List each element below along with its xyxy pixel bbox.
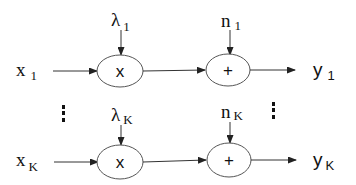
ellipsis-right [272, 102, 275, 119]
row-1: x1 λ1 x n1 + y1 [16, 9, 335, 87]
gain-label-1: λ1 [111, 9, 130, 34]
noise-label-1: n1 [221, 10, 241, 33]
multiplier-symbol-k: x [116, 153, 125, 172]
adder-node-1: + [206, 54, 250, 86]
multiplier-symbol-1: x [116, 62, 125, 81]
link-arrow-k [143, 160, 206, 162]
channel-diagram: x1 λ1 x n1 + y1 [0, 0, 356, 185]
output-label-k: yK [313, 149, 335, 173]
input-label-1: x1 [16, 59, 37, 83]
gain-label-k: λK [111, 104, 133, 127]
output-label-1: y1 [313, 59, 335, 83]
link-arrow-1 [143, 70, 205, 71]
multiplier-node-k: x [97, 145, 143, 179]
adder-symbol-1: + [223, 61, 233, 80]
adder-node-k: + [207, 143, 251, 177]
input-label-k: xK [16, 149, 39, 174]
multiplier-node-1: x [97, 55, 143, 87]
ellipsis-left [62, 105, 65, 122]
noise-label-k: nK [221, 101, 244, 123]
adder-symbol-k: + [224, 151, 234, 170]
